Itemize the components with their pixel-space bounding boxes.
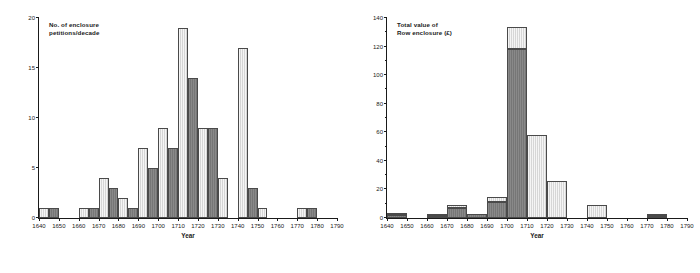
y-axis-tick-label: 0: [32, 215, 35, 221]
y-axis-tick-label: 100: [373, 72, 383, 78]
x-axis-tick: [238, 218, 239, 221]
bar-stacked: [527, 135, 547, 218]
bar-dark: [89, 208, 99, 218]
x-axis-tick-label: 1790: [680, 223, 693, 229]
x-axis-tick-label: 1690: [480, 223, 493, 229]
y-axis-tick: [384, 160, 387, 161]
bar-stacked: [647, 215, 667, 218]
x-axis-tick: [467, 218, 468, 221]
x-axis-tick: [258, 218, 259, 221]
y-axis-tick: [384, 188, 387, 189]
y-axis-minor-tick: [385, 174, 387, 175]
y-axis-tick-label: 60: [376, 129, 383, 135]
y-axis-tick-label: 40: [376, 158, 383, 164]
bar-light: [238, 48, 248, 218]
x-axis-tick: [138, 218, 139, 221]
y-axis-tick: [36, 167, 39, 168]
chart-panel-left: No. of enclosure petitions/decade Year 0…: [0, 0, 350, 273]
bar-segment-light: [527, 135, 547, 218]
bar-light: [258, 208, 268, 218]
x-axis-tick: [59, 218, 60, 221]
x-axis-title-left: Year: [39, 232, 337, 239]
bar-segment-light: [507, 27, 527, 50]
y-axis-tick-label: 120: [373, 44, 383, 50]
x-axis-tick-label: 1790: [330, 223, 343, 229]
bar-light: [178, 28, 188, 218]
bar-light: [118, 198, 128, 218]
x-axis-tick: [687, 218, 688, 221]
chart-panel-right: Total value of Row enclosure (£) Year 02…: [350, 0, 700, 273]
y-axis-tick: [384, 131, 387, 132]
bar-dark: [208, 128, 218, 218]
y-axis-tick-label: 5: [32, 165, 35, 171]
bar-segment-light: [487, 197, 507, 203]
plot-area-left: No. of enclosure petitions/decade Year 0…: [38, 18, 337, 219]
x-axis-tick-label: 1660: [72, 223, 85, 229]
x-axis-tick-label: 1640: [380, 223, 393, 229]
x-axis-tick-label: 1710: [171, 223, 184, 229]
bar-light: [138, 148, 148, 218]
x-axis-tick: [667, 218, 668, 221]
figure-canvas: No. of enclosure petitions/decade Year 0…: [0, 0, 700, 273]
bar-segment-light: [427, 214, 447, 216]
bar-light: [79, 208, 89, 218]
y-axis-minor-tick: [385, 146, 387, 147]
x-axis-tick: [218, 218, 219, 221]
bar-segment-dark: [487, 202, 507, 218]
x-axis-tick: [427, 218, 428, 221]
x-axis-tick: [317, 218, 318, 221]
y-axis-tick: [36, 67, 39, 68]
bar-segment-light: [587, 205, 607, 218]
x-axis-tick-label: 1760: [620, 223, 633, 229]
x-axis-tick: [99, 218, 100, 221]
bar-light: [218, 178, 228, 218]
bar-dark: [248, 188, 258, 218]
bar-segment-dark: [467, 214, 487, 218]
x-axis-tick-label: 1650: [400, 223, 413, 229]
x-axis-tick-label: 1780: [660, 223, 673, 229]
x-axis-tick-label: 1770: [291, 223, 304, 229]
y-axis-minor-tick: [385, 31, 387, 32]
bar-stacked: [487, 197, 507, 218]
x-axis-tick-label: 1670: [92, 223, 105, 229]
y-axis-minor-tick: [385, 60, 387, 61]
bar-dark: [49, 208, 59, 218]
x-axis-tick: [407, 218, 408, 221]
x-axis-tick-label: 1780: [310, 223, 323, 229]
bar-stacked: [427, 215, 447, 218]
y-axis-tick: [36, 117, 39, 118]
x-axis-tick: [547, 218, 548, 221]
x-axis-tick-label: 1640: [32, 223, 45, 229]
y-axis-tick-label: 20: [376, 186, 383, 192]
y-axis-minor-tick: [385, 117, 387, 118]
bar-segment-light: [387, 213, 407, 215]
y-axis-tick: [384, 46, 387, 47]
x-axis-tick: [178, 218, 179, 221]
x-axis-tick-label: 1730: [211, 223, 224, 229]
bar-light: [39, 208, 49, 218]
x-axis-tick-label: 1740: [580, 223, 593, 229]
x-axis-tick: [487, 218, 488, 221]
y-axis-tick-label: 15: [28, 65, 35, 71]
bar-group-left: [39, 18, 337, 218]
x-axis-tick-label: 1730: [560, 223, 573, 229]
x-axis-tick: [507, 218, 508, 221]
y-axis-tick-label: 0: [380, 215, 383, 221]
x-axis-tick-label: 1740: [231, 223, 244, 229]
x-axis-tick-label: 1720: [540, 223, 553, 229]
bar-dark: [148, 168, 158, 218]
x-axis-tick-label: 1750: [251, 223, 264, 229]
bar-segment-dark: [647, 216, 667, 218]
y-axis-minor-tick: [385, 88, 387, 89]
x-axis-tick-label: 1700: [500, 223, 513, 229]
x-axis-tick-label: 1680: [112, 223, 125, 229]
bar-segment-dark: [507, 49, 527, 218]
bar-light: [198, 128, 208, 218]
x-axis-tick-label: 1770: [640, 223, 653, 229]
plot-area-right: Total value of Row enclosure (£) Year 02…: [386, 18, 687, 219]
x-axis-tick-label: 1700: [152, 223, 165, 229]
y-axis-tick: [384, 74, 387, 75]
x-axis-tick: [277, 218, 278, 221]
bar-segment-dark: [387, 215, 407, 218]
y-axis-tick: [36, 17, 39, 18]
